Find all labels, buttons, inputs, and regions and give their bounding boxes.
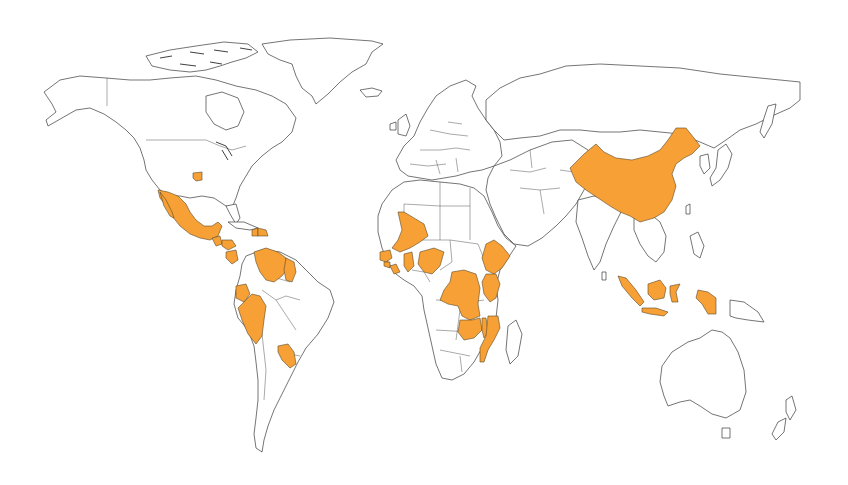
world-map <box>0 0 848 485</box>
korea <box>700 154 710 174</box>
florida <box>226 204 240 224</box>
country-sierra-leone[interactable] <box>384 262 390 268</box>
papua-new-guinea <box>730 300 764 322</box>
world-map-svg <box>0 0 848 485</box>
country-honduras[interactable] <box>222 240 236 250</box>
japan <box>710 144 732 186</box>
base-land-layer <box>44 38 800 452</box>
europe <box>396 80 502 180</box>
country-guatemala[interactable] <box>212 236 222 246</box>
country-indonesia-papua[interactable] <box>696 290 716 314</box>
british-isles <box>398 114 410 136</box>
new-zealand <box>786 396 796 420</box>
philippines <box>690 232 704 258</box>
new-zealand-south <box>772 418 786 440</box>
madagascar <box>506 320 522 364</box>
iceland <box>360 88 382 97</box>
country-indonesia-kalimantan[interactable] <box>648 280 666 300</box>
sri-lanka <box>602 272 606 280</box>
cuba <box>228 222 258 230</box>
region-us-four-corners[interactable] <box>193 172 202 181</box>
taiwan <box>686 204 690 214</box>
canadian-arctic-islands <box>146 42 258 72</box>
country-dominican-republic[interactable] <box>258 228 268 236</box>
russia <box>486 64 800 148</box>
tasmania <box>722 428 730 438</box>
australia <box>660 330 746 418</box>
country-indonesia-java[interactable] <box>642 308 668 316</box>
country-indonesia-sulawesi[interactable] <box>670 284 680 302</box>
north-america <box>44 76 296 208</box>
country-nicaragua[interactable] <box>226 250 238 264</box>
ireland <box>390 122 396 130</box>
country-indonesia-sumatra[interactable] <box>618 276 644 306</box>
